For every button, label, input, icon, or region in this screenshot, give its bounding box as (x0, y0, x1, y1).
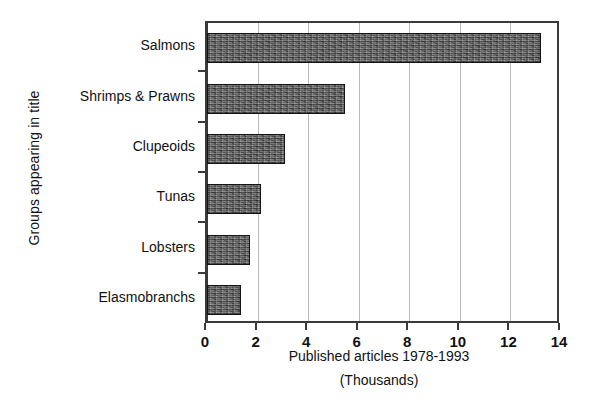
y-axis-tick-label: Tunas (0, 188, 195, 204)
y-axis-tick-label: Clupeoids (0, 138, 195, 154)
x-axis-title-units: (Thousands) (0, 372, 598, 388)
y-axis-tick (198, 70, 205, 72)
y-axis-tick-label: Salmons (0, 37, 195, 53)
gridline-12 (510, 23, 511, 321)
x-axis-tick (255, 323, 257, 330)
x-axis-title: Published articles 1978-1993 (0, 348, 598, 364)
bar (207, 184, 261, 214)
y-axis-title: Groups appearing in title (26, 38, 42, 298)
y-axis-tick (198, 171, 205, 173)
x-axis-tick (457, 323, 459, 330)
x-axis-tick (356, 323, 358, 330)
bar (207, 134, 285, 164)
y-axis-tick (198, 272, 205, 274)
gridline-2 (258, 23, 259, 321)
x-axis-tick (406, 323, 408, 330)
plot-area (205, 21, 559, 323)
bar (207, 285, 241, 315)
x-axis-tick (305, 323, 307, 330)
gridline-8 (409, 23, 410, 321)
y-axis-tick-label: Lobsters (0, 239, 195, 255)
x-axis-tick (507, 323, 509, 330)
bar (207, 84, 345, 114)
y-axis-tick-label: Shrimps & Prawns (0, 88, 195, 104)
bar (207, 235, 250, 265)
bar-chart: Groups appearing in title SalmonsShrimps… (0, 0, 598, 404)
gridline-6 (359, 23, 360, 321)
gridline-10 (460, 23, 461, 321)
bar (207, 33, 541, 63)
y-axis-tick (198, 121, 205, 123)
y-axis-tick-label: Elasmobranchs (0, 289, 195, 305)
gridline-0 (207, 23, 208, 321)
gridline-4 (308, 23, 309, 321)
y-axis-tick (198, 221, 205, 223)
x-axis-tick (204, 323, 206, 330)
x-axis-tick (558, 323, 560, 330)
